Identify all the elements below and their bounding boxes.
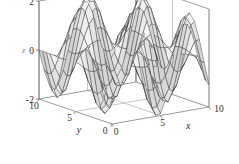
z-tick-label-2: 2 — [29, 0, 34, 7]
z-axis-ticklabels: 2 0 -2 z — [21, 0, 34, 105]
y-axis-title: y — [76, 124, 82, 135]
x-tick-label-5: 5 — [160, 118, 165, 128]
y-tick-mark — [111, 124, 113, 127]
z-tick-label-0: 0 — [29, 46, 34, 56]
figure-canvas: 2 0 -2 z 10 5 0 y 0 5 10 x — [0, 0, 239, 164]
y-tick-label-5: 5 — [67, 113, 72, 123]
z-axis-title: z — [21, 46, 26, 55]
y-tick-mark — [74, 112, 76, 115]
x-tick-mark — [209, 107, 211, 110]
y-tick-label-10: 10 — [29, 101, 39, 111]
x-tick-label-0: 0 — [114, 127, 119, 137]
x-axis-title: x — [185, 120, 191, 131]
y-tick-label-0: 0 — [103, 126, 108, 136]
surface-plot-svg[interactable]: 2 0 -2 z 10 5 0 y 0 5 10 x — [0, 0, 239, 164]
surface-patch — [201, 61, 210, 85]
x-tick-label-10: 10 — [214, 104, 224, 114]
